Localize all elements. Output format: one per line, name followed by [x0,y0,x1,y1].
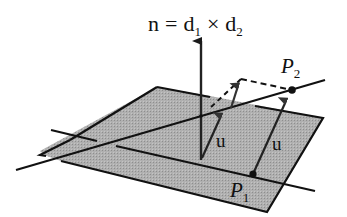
p2-subscript: 2 [294,66,301,81]
point-p2 [288,86,296,94]
point-p1 [249,170,256,177]
point-p2-label: P2 [281,56,300,80]
p2-letter: P [281,54,294,78]
formula-d2-sub: 2 [236,24,243,39]
origin-point [199,114,203,118]
p1-letter: P [230,178,243,202]
formula-equals: = [165,11,177,36]
p1-subscript: 1 [243,190,250,205]
formula-d1: d [183,11,194,36]
u-right-label: u [272,134,282,153]
formula-cross: × [207,11,219,36]
formula-d1-sub: 1 [194,24,201,39]
formula-n: n [148,11,159,36]
point-p1-label: P1 [230,180,249,204]
formula-d2: d [225,11,236,36]
u-left-label: u [216,131,226,150]
normal-formula-label: n=d1×d2 [148,13,243,38]
